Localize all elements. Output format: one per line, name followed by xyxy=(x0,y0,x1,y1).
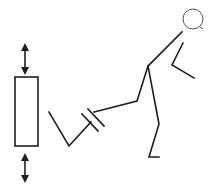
figure-head-tick xyxy=(200,27,203,29)
figure-standing-leg xyxy=(148,66,159,157)
figure-torso xyxy=(148,32,182,66)
figure-kicking-leg-upper xyxy=(94,66,148,112)
figure-head xyxy=(183,9,203,29)
block-rectangle xyxy=(15,77,38,146)
diagram-svg xyxy=(0,0,212,196)
stick-figure xyxy=(49,9,203,157)
figure-arm xyxy=(172,43,194,78)
diagram-canvas: Line drawing of a stick figure kicking t… xyxy=(0,0,212,196)
